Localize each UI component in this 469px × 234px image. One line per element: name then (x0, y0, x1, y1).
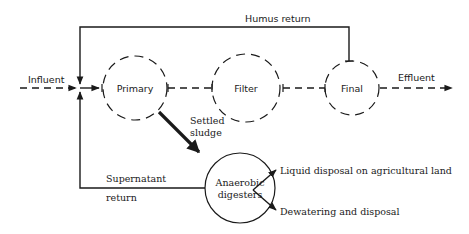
humus-return-line (80, 27, 353, 84)
primary-node: Primary (103, 56, 167, 120)
sewage-treatment-flow-diagram: Humus return Influent Supernatant return… (0, 0, 469, 234)
supernatant-label: Supernatant (106, 173, 166, 184)
anaerobic-digesters-node: Anaerobic digesters (205, 153, 275, 223)
humus-return-label: Humus return (245, 13, 310, 24)
primary-label: Primary (117, 83, 154, 94)
filter-label: Filter (234, 83, 258, 94)
supernatant-return-label: return (106, 192, 137, 203)
liquid-disposal-label: Liquid disposal on agricultural land (280, 165, 452, 176)
sludge-label: sludge (190, 127, 222, 138)
final-node: Final (325, 61, 379, 115)
dewatering-label: Dewatering and disposal (280, 206, 400, 217)
settled-label: Settled (190, 115, 225, 126)
digesters-label: digesters (218, 189, 263, 200)
final-label: Final (341, 83, 363, 94)
filter-node: Filter (212, 54, 280, 122)
effluent-label: Effluent (398, 72, 435, 83)
influent-label: Influent (28, 74, 65, 85)
